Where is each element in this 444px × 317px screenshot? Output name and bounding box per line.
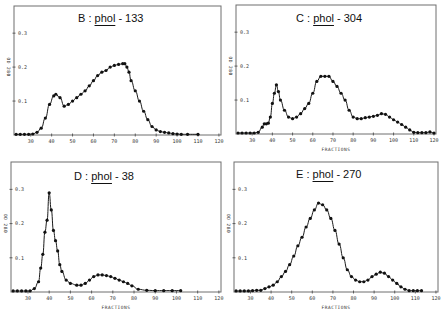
data-point [279,98,282,101]
data-point [370,275,373,278]
y-tick-label: 0.3 [18,30,27,36]
data-point [416,289,419,292]
data-point [33,287,36,290]
data-point [315,80,318,83]
data-point [63,105,66,108]
data-point [123,62,126,65]
data-point [101,273,104,276]
data-point [24,289,27,292]
data-point [88,278,91,281]
data-point [339,92,342,95]
data-point [358,280,361,283]
title-separator: : [88,12,91,24]
plot-frame [234,162,438,292]
x-tick-label: 90 [370,137,376,143]
y-tick-label: 0.2 [18,64,27,70]
data-point [142,110,145,113]
x-tick-label: 110 [411,295,420,301]
data-point [272,284,275,287]
data-point [159,130,162,133]
x-tick-label: 40 [49,138,55,144]
x-tick-label: 110 [193,295,202,301]
data-point [350,275,353,278]
x-tick-label: 60 [90,138,96,144]
y-tick-label: 0.1 [18,98,27,104]
data-point [129,79,132,82]
panel-letter: C [296,12,304,24]
data-point [356,117,359,120]
data-point [323,75,326,78]
data-point [404,126,407,129]
data-point [276,280,279,283]
y-tick-label: 0.2 [15,220,24,226]
x-tick-label: 70 [330,137,336,143]
data-point [280,275,283,278]
data-point [35,131,38,134]
data-point [420,289,423,292]
data-point [162,289,165,292]
x-tick-label: 80 [350,137,356,143]
y-axis-label: OD 280 [3,214,8,233]
x-tick-label: 90 [153,138,159,144]
data-point [300,236,303,239]
panel-title: B : phol - 133 [78,12,143,24]
x-tick-label: 30 [25,295,31,301]
data-point [364,116,367,119]
data-point [118,278,121,281]
data-point [327,75,330,78]
data-point [155,128,158,131]
y-axis-label: OD 280 [226,214,231,233]
y-tick-label: 0.2 [238,220,247,226]
data-point [134,89,137,92]
data-point [146,118,149,121]
data-point [287,115,290,118]
data-point [277,90,280,93]
panel-letter: B [78,12,85,24]
data-point [145,289,148,292]
data-point [395,282,398,285]
data-point [67,103,70,106]
panel-d: 0.10.20.330405060708090100110120OD 280FR… [0,158,222,317]
y-axis-label: OD 280 [228,56,233,75]
data-point [379,271,382,274]
y-tick-label: 0.2 [240,63,249,69]
x-tick-label: 40 [269,137,275,143]
data-point [196,133,199,136]
y-tick-label: 0.1 [240,97,249,103]
x-tick-label: 60 [310,137,316,143]
data-point [130,284,133,287]
data-point [92,79,95,82]
data-point [186,133,189,136]
data-point [45,219,48,222]
data-point [296,244,299,247]
panel-title: C : phol - 304 [296,12,362,24]
x-tick-label: 50 [289,295,295,301]
data-point [319,75,322,78]
x-tick-label: 70 [110,295,116,301]
data-point [243,289,246,292]
data-point [387,275,390,278]
data-point [263,287,266,290]
elution-curve [13,193,181,291]
data-point [249,131,252,134]
data-point [352,115,355,118]
data-point [383,272,386,275]
data-point [48,191,51,194]
data-point [408,289,411,292]
panel-title: D : phol - 38 [74,170,134,182]
panel-c: 0.10.20.330405060708090100110120OD 280FR… [222,0,444,159]
data-point [69,282,72,285]
x-tick-label: 70 [330,295,336,301]
title-separator: : [307,12,310,24]
data-point [60,270,63,273]
data-point [428,130,431,133]
plot-area: 0.10.20.330405060708090100110120OD 280FR… [222,158,444,317]
data-point [234,289,237,292]
data-point [384,113,387,116]
x-axis-label: FRACTIONS [102,305,131,310]
x-tick-label: 110 [409,137,418,143]
data-point [117,63,120,66]
data-point [96,273,99,276]
data-point [240,131,243,134]
data-point [299,112,302,115]
